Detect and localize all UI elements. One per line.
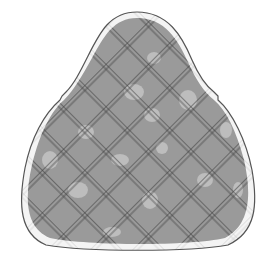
margin-hatch	[22, 12, 255, 250]
patent-figure-triangular-pad	[0, 0, 274, 260]
